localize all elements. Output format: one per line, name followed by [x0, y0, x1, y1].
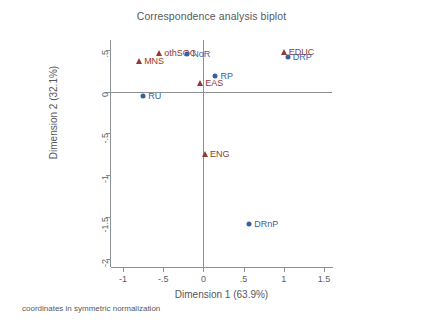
x-axis-tick	[284, 268, 285, 272]
x-axis-tick-label: 1.5	[318, 274, 331, 284]
plot-area: .50-.5-1-1.5-2-1-.50.511.5othSOCMNSEDUCE…	[111, 40, 332, 267]
x-axis-tick-label: -1	[119, 274, 127, 284]
triangle-marker-icon	[156, 50, 162, 56]
y-axis-tick-label: -1.5	[100, 217, 110, 233]
data-point[interactable]	[156, 50, 162, 56]
data-point-label: MNS	[144, 57, 164, 66]
triangle-marker-icon	[197, 80, 203, 86]
data-point-label: RP	[220, 72, 233, 81]
data-point[interactable]	[197, 80, 203, 86]
page-title: Correspondence analysis biplot	[0, 10, 423, 22]
data-point[interactable]	[285, 54, 290, 59]
y-axis-tick-label: -2	[100, 259, 110, 267]
x-axis-tick-label: 1	[281, 274, 286, 284]
y-axis-tick-label: -1	[100, 175, 110, 183]
x-axis-spine	[111, 267, 333, 268]
chart-footnote: coordinates in symmetric normalization	[22, 304, 160, 313]
x-axis-tick-label: 0	[201, 274, 206, 284]
y-axis-tick-label: .5	[100, 50, 110, 58]
triangle-marker-icon	[136, 58, 142, 64]
x-axis-tick	[163, 268, 164, 272]
x-axis-tick	[203, 268, 204, 272]
x-axis-title: Dimension 1 (63.9%)	[111, 289, 332, 300]
circle-marker-icon	[285, 54, 290, 59]
circle-marker-icon	[185, 52, 190, 57]
y-axis-tick-label: -.5	[100, 133, 110, 144]
data-point[interactable]	[185, 52, 190, 57]
data-point-label: DRnP	[254, 220, 278, 229]
y-axis-spine	[110, 40, 111, 267]
x-axis-tick	[324, 268, 325, 272]
data-point-label: RU	[148, 92, 161, 101]
x-axis-tick-label: .5	[240, 274, 248, 284]
data-point[interactable]	[136, 58, 142, 64]
x-axis-tick	[244, 268, 245, 272]
y-axis-title: Dimension 2 (32.1%)	[48, 8, 59, 218]
data-point[interactable]	[247, 222, 252, 227]
data-point[interactable]	[202, 151, 208, 157]
data-point[interactable]	[141, 93, 146, 98]
x-axis-tick-label: -.5	[158, 274, 169, 284]
y-axis-tick-label: 0	[100, 92, 110, 97]
circle-marker-icon	[247, 222, 252, 227]
data-point-label: DRP	[293, 53, 312, 62]
circle-marker-icon	[213, 73, 218, 78]
triangle-marker-icon	[202, 151, 208, 157]
plot-frame: .50-.5-1-1.5-2-1-.50.511.5othSOCMNSEDUCE…	[111, 40, 332, 267]
data-point[interactable]	[213, 73, 218, 78]
data-point-label: NoR	[192, 50, 210, 59]
data-point-label: ENG	[210, 150, 230, 159]
x-axis-tick	[123, 268, 124, 272]
circle-marker-icon	[141, 93, 146, 98]
